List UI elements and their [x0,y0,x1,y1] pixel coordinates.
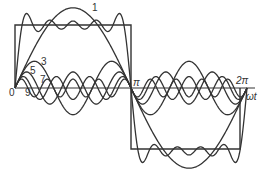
harmonic-label-1: 1 [92,3,98,13]
harmonic-label-9: 9 [25,88,31,98]
origin-label: 0 [9,88,15,98]
harmonic-label-3: 3 [41,57,47,67]
harmonic-label-7: 7 [40,75,46,85]
pi-label: π [133,78,140,88]
x-axis-label: ωt [246,92,257,102]
harmonic-label-5: 5 [30,66,36,76]
fourier-diagram [0,0,263,174]
two-pi-label: 2π [236,76,248,86]
